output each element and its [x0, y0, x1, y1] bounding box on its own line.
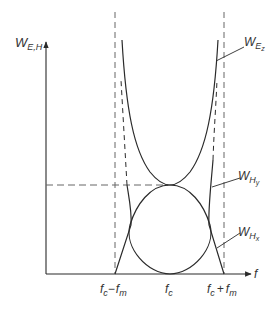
curve-W-Hy-right-solid [209, 160, 224, 274]
leader-W-Ez [216, 47, 244, 61]
curve-W-Ez [122, 40, 218, 185]
leader-W-Hx [217, 233, 240, 248]
diagram-canvas: WE,H f fc−fm fc fc+fm WEz WHy WHx [0, 0, 272, 310]
label-W-Hy: WHy [238, 169, 260, 187]
x-axis-label: f [254, 267, 259, 281]
label-W-Hx: WHx [238, 225, 260, 242]
tick-label-fc-minus-fm: fc−fm [100, 282, 127, 298]
curve-W-Hx [129, 185, 211, 274]
y-axis-label: WE,H [15, 35, 43, 52]
tick-label-fc-plus-fm: fc+fm [207, 282, 237, 298]
tick-label-fc: fc [165, 282, 173, 298]
label-W-Ez: WEz [244, 35, 265, 52]
leader-W-Hy [212, 178, 240, 187]
curve-W-Hy-left-dashed [121, 80, 127, 185]
